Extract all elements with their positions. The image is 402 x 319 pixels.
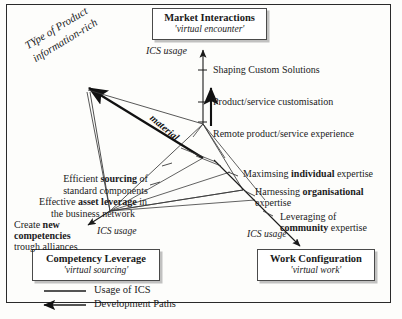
node-title: Work Configuration [264, 253, 368, 265]
competency-item-2-line2b: competencies [14, 230, 71, 241]
competency-item-1-bold: asset leverage [78, 196, 137, 207]
work-item-1: Harnessing organisational expertise [255, 186, 390, 208]
node-title: Market Interactions [159, 12, 260, 24]
work-item-0-post: expertise [334, 168, 373, 179]
competency-item-1-line2: the business network [51, 208, 135, 219]
node-competency-leverage[interactable]: Competency Leverage 'virtual sourcing' [32, 249, 160, 281]
ics-usage-label-top: ICS usage [146, 45, 187, 56]
market-item-1: Product/service customisation [213, 96, 333, 108]
market-item-0: Shaping Custom Solutions [213, 64, 320, 76]
competency-item-1-pre: Effective [39, 196, 78, 207]
competency-item-2: Create new competencies trough alliances [14, 219, 104, 252]
legend-label-usage-of-ics: Usage of ICS [94, 284, 151, 295]
work-item-2-pre: Leveraging of [280, 211, 336, 222]
competency-item-1: Effective asset leverage in the business… [24, 196, 162, 219]
competency-item-0-pre: Efficient [63, 173, 100, 184]
work-item-1-bold: organisational [303, 186, 364, 197]
competency-item-0-bold: sourcing [100, 173, 137, 184]
work-item-1-line2: expertise [255, 197, 291, 208]
node-title: Competency Leverage [39, 253, 153, 265]
work-item-2: Leveraging of community expertise [280, 211, 390, 233]
competency-item-0-post: of [137, 173, 148, 184]
node-subtitle: 'virtual encounter' [159, 24, 260, 35]
work-item-0-bold: individual [291, 168, 334, 179]
figure-root: Market Interactions 'virtual encounter' … [0, 0, 402, 319]
work-item-2-post: expertise [328, 222, 367, 233]
node-market-interactions[interactable]: Market Interactions 'virtual encounter' [152, 8, 267, 40]
competency-item-0-line2: standard components [63, 185, 148, 196]
work-item-0: Maximsing individual expertise [243, 168, 373, 180]
competency-item-1-post: in [137, 196, 147, 207]
competency-item-2-line3: trough alliances [14, 241, 78, 252]
legend-label-development-paths: Development Paths [94, 298, 176, 309]
market-item-2: Remote product/service experience [213, 128, 354, 140]
competency-item-2-pre: Create [14, 219, 43, 230]
work-item-0-pre: Maximsing [243, 168, 291, 179]
node-work-configuration[interactable]: Work Configuration 'virtual work' [257, 249, 375, 281]
work-item-1-pre: Harnessing [255, 186, 303, 197]
node-subtitle: 'virtual sourcing' [39, 265, 153, 276]
competency-item-0: Efficient sourcing of standard component… [48, 173, 163, 196]
work-item-2-bold: community [280, 222, 328, 233]
competency-item-2-bold: new [43, 219, 60, 230]
node-subtitle: 'virtual work' [264, 265, 368, 276]
